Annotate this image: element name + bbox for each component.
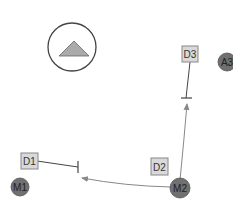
node-m1[interactable]: M1 (11, 178, 29, 196)
box-d3-label: D3 (184, 49, 197, 60)
edge-m2-to-d1-target[interactable] (82, 178, 171, 187)
box-d1-label: D1 (23, 156, 36, 167)
box-d3[interactable]: D3 (182, 46, 198, 62)
node-m2[interactable]: M2 (170, 178, 190, 198)
node-m1-label: M1 (13, 182, 27, 193)
box-d2-label: D2 (153, 162, 166, 173)
compartment-node[interactable] (48, 23, 96, 71)
node-a3[interactable]: A3 (218, 53, 233, 71)
node-m2-label: M2 (173, 183, 187, 194)
box-d2[interactable]: D2 (151, 158, 168, 175)
edge-d3-inhibition[interactable] (181, 62, 192, 98)
edge-m2-to-d3-target[interactable] (180, 104, 187, 180)
box-d1[interactable]: D1 (21, 153, 38, 169)
node-a3-label: A3 (221, 57, 233, 68)
diagram-canvas: D3 A3 D1 M1 D2 M2 (0, 0, 233, 214)
edge-d1-inhibition[interactable] (37, 161, 78, 173)
diagram-svg: D3 A3 D1 M1 D2 M2 (0, 0, 233, 214)
